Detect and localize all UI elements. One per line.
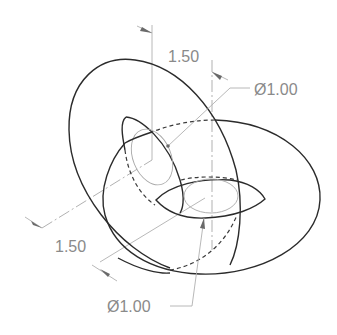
dim-label-left-distance: 1.50 [55,238,86,255]
dim-left-leader-top [25,217,42,228]
arrow-icon [212,72,222,80]
dimension-left-distance: 1.50 [25,217,117,281]
arrow-icon [100,269,110,277]
tilted-torus [69,59,240,273]
flat-torus-outer-edge [103,120,320,274]
dim-bottom-diameter-leader [170,218,204,306]
torus-drawing: 1.50 Ø1.00 1.50 Ø1.00 [0,0,337,335]
extension-line-diagonal-lower [100,198,205,262]
leader-dot-icon [166,144,170,148]
arrow-icon [140,27,152,33]
flat-torus-inner-edge [156,180,265,218]
dim-label-top-distance: 1.50 [168,48,199,65]
flat-torus [103,120,320,274]
dim-top-diameter-leader [168,88,250,146]
dimension-top-diameter: Ø1.00 [166,81,297,148]
flat-torus-outer-edge-left [125,132,152,143]
dim-label-bottom-diameter: Ø1.00 [107,298,151,315]
centerline-diagonal-upper [42,160,152,228]
tilted-torus-hidden-edge [125,150,155,205]
arrow-icon [200,218,205,229]
tilted-torus-outer-edge [69,59,240,268]
dimension-top-distance: 1.50 [137,26,228,80]
flat-torus-outer-hidden-edge [152,120,215,132]
flat-torus-hole-circle [184,179,238,213]
dim-label-top-diameter: Ø1.00 [254,81,298,98]
